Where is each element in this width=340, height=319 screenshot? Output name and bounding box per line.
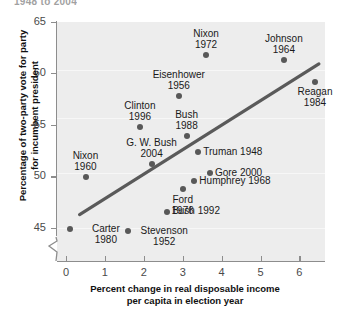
- data-point-carter-1980[interactable]: [67, 226, 73, 232]
- x-tick-label-6: 6: [287, 266, 311, 278]
- label-line1: Bush 1992: [172, 205, 220, 216]
- label-line2: 1980: [95, 234, 117, 245]
- data-point-johnson-1964[interactable]: [281, 57, 287, 63]
- data-label-reagan-1984: Reagan1984: [270, 86, 340, 108]
- x-tick-label-2: 2: [132, 266, 156, 278]
- y-tick-65: [51, 22, 56, 23]
- y-tick-55: [51, 125, 56, 126]
- x-tick-label-0: 0: [54, 266, 78, 278]
- x-tick-label-3: 3: [171, 266, 195, 278]
- gridline-50: [57, 173, 325, 174]
- label-line2: 1960: [74, 161, 96, 172]
- scatter-chart: 1948 to 2004 4550556065 0123456 Nixon197…: [0, 0, 340, 319]
- data-label-eisenhower-1956: Eisenhower1956: [134, 69, 224, 91]
- label-line1: Reagan: [297, 86, 332, 97]
- data-label-bush-1992: Bush 1992: [172, 205, 220, 216]
- data-label-truman-1948: Truman 1948: [203, 146, 262, 157]
- data-label-nixon-1972: Nixon1972: [161, 28, 251, 50]
- x-tick-label-5: 5: [249, 266, 273, 278]
- label-line2: 1952: [153, 236, 175, 247]
- label-line1: G. W. Bush: [126, 137, 177, 148]
- y-tick-50: [51, 176, 56, 177]
- label-line1: Bush: [175, 109, 198, 120]
- label-line2: 1964: [273, 44, 295, 55]
- label-line2: 1956: [168, 80, 190, 91]
- x-tick-5: [261, 256, 262, 261]
- y-axis: [56, 21, 57, 236]
- data-point-bush-1992[interactable]: [164, 209, 170, 215]
- data-label-carter-1980: Carter1980: [74, 223, 138, 245]
- x-tick-2: [144, 256, 145, 261]
- label-line1: Ford: [172, 194, 193, 205]
- data-point-humphrey-1968[interactable]: [191, 178, 197, 184]
- label-line2: 1984: [304, 97, 326, 108]
- chart-title-fragment: 1948 to 2004: [14, 0, 77, 5]
- label-line1: Stevenson: [141, 225, 188, 236]
- x-tick-3: [183, 256, 184, 261]
- y-tick-60: [51, 73, 56, 74]
- data-label-bush-1988: Bush1988: [142, 109, 232, 131]
- data-label-nixon-1960: Nixon1960: [40, 150, 130, 172]
- data-point-reagan-1984[interactable]: [312, 79, 318, 85]
- x-tick-label-1: 1: [93, 266, 117, 278]
- data-point-nixon-1960[interactable]: [83, 174, 89, 180]
- x-axis-title-line1: Percent change in real disposable income: [90, 283, 280, 294]
- x-tick-0: [66, 256, 67, 261]
- x-axis-title: Percent change in real disposable income…: [40, 283, 330, 307]
- x-tick-label-4: 4: [210, 266, 234, 278]
- label-line2: 2004: [140, 148, 162, 159]
- data-point-truman-1948[interactable]: [195, 149, 201, 155]
- x-axis-title-line2: per capita in election year: [127, 295, 244, 306]
- data-point-eisenhower-1956[interactable]: [176, 93, 182, 99]
- label-line1: Nixon: [193, 28, 219, 39]
- data-point-ford-1976[interactable]: [180, 186, 186, 192]
- axis-break-icon: [44, 236, 62, 262]
- y-axis-title-line2: for incumbent president: [28, 61, 39, 170]
- y-axis-title-line1: Percentage of two-party vote for party: [17, 30, 28, 202]
- label-line2: 1988: [175, 120, 197, 131]
- data-label-johnson-1964: Johnson1964: [239, 33, 329, 55]
- x-axis: [57, 261, 325, 262]
- x-tick-6: [299, 256, 300, 261]
- y-tick-label-45: 45: [18, 221, 46, 233]
- y-axis-title: Percentage of two-party vote for party f…: [17, 26, 40, 206]
- label-line1: Eisenhower: [153, 69, 205, 80]
- data-point-g-w-bush-2004[interactable]: [149, 161, 155, 167]
- x-tick-4: [222, 256, 223, 261]
- label-line2: 1972: [195, 39, 217, 50]
- label-line1: Humphrey 1968: [199, 175, 270, 186]
- y-tick-45: [51, 228, 56, 229]
- label-line1: Johnson: [265, 33, 303, 44]
- x-tick-1: [105, 256, 106, 261]
- label-line1: Truman 1948: [203, 146, 262, 157]
- data-label-humphrey-1968: Humphrey 1968: [199, 175, 270, 186]
- data-point-nixon-1972[interactable]: [203, 52, 209, 58]
- data-label-stevenson-1952: Stevenson1952: [132, 225, 196, 247]
- label-line1: Carter: [92, 223, 120, 234]
- label-line1: Nixon: [73, 150, 99, 161]
